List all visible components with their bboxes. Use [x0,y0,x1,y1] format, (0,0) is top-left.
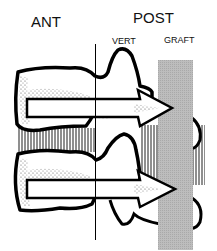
graft-bar [158,60,193,250]
spine-diagram [0,0,217,251]
